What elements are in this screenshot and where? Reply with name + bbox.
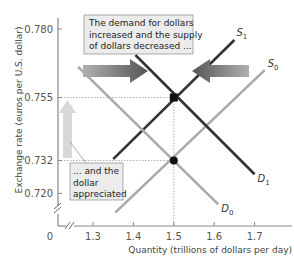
x-tick-label: 1.5 — [166, 231, 182, 242]
curve-label-d1: D1 — [258, 173, 270, 187]
x-axis-title: Quantity (trillions of dollars per day) — [128, 245, 292, 255]
appreciate-annotation: ... and thedollarappreciated — [70, 142, 127, 200]
curve-labels: S0S1D0D1 — [221, 27, 278, 217]
x-tick-label: 1.3 — [85, 231, 101, 242]
x-tick-label: 1.7 — [247, 231, 263, 242]
x-ticks: 1.31.41.51.61.7 — [85, 222, 263, 242]
curve-label-s1: S1 — [236, 27, 247, 41]
x-tick-label: 1.6 — [206, 231, 222, 242]
annotation-line: dollar — [73, 178, 99, 188]
shift-annotation-text: The demand for dollarsincreased and the … — [88, 18, 203, 51]
annotation-line: appreciated — [73, 189, 127, 199]
x-axis-break-icon — [65, 222, 74, 229]
curve-label-s0: S0 — [268, 58, 279, 72]
annotation-line: The demand for dollars — [88, 18, 194, 28]
curve-s0 — [115, 70, 264, 212]
appreciate-leader-line — [70, 142, 86, 163]
supply-shift-arrow — [192, 59, 249, 83]
x-origin-label: 0 — [47, 231, 53, 242]
y-axis-title: Exchange rate (euros per U.S. dollar) — [14, 27, 24, 194]
equilibrium-point-initial — [170, 157, 178, 165]
shift-annotation: The demand for dollarsincreased and the … — [84, 15, 203, 54]
demand-shift-arrow — [83, 59, 148, 83]
x-tick-label: 1.4 — [125, 231, 141, 242]
annotation-line: increased and the supply — [89, 30, 203, 40]
y-tick-label: 0.780 — [24, 24, 53, 35]
y-tick-label: 0.755 — [24, 92, 53, 103]
appreciation-arrow — [59, 100, 76, 158]
curve-label-d0: D0 — [221, 203, 233, 217]
chart: 1.31.41.51.61.7 0.7200.7320.7550.780 0 Q… — [0, 0, 294, 265]
y-tick-label: 0.732 — [24, 155, 53, 166]
annotation-line: of dollars decreased ... — [89, 41, 192, 51]
y-tick-label: 0.720 — [24, 188, 53, 199]
y-ticks: 0.7200.7320.7550.780 — [24, 24, 62, 199]
annotation-line: ... and the — [73, 166, 119, 176]
equilibrium-point-new — [170, 94, 178, 102]
